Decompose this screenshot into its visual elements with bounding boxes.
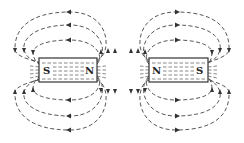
left-magnet-north-pole: N bbox=[85, 65, 94, 76]
left-magnet-south-pole: S bbox=[43, 65, 50, 76]
right-magnet-south-pole: S bbox=[196, 65, 203, 76]
magnetic-field-diagram: S N N S bbox=[0, 0, 244, 143]
right-bar-magnet: N S bbox=[149, 58, 208, 82]
left-bar-magnet: S N bbox=[39, 58, 97, 82]
right-magnet-north-pole: N bbox=[152, 65, 161, 76]
